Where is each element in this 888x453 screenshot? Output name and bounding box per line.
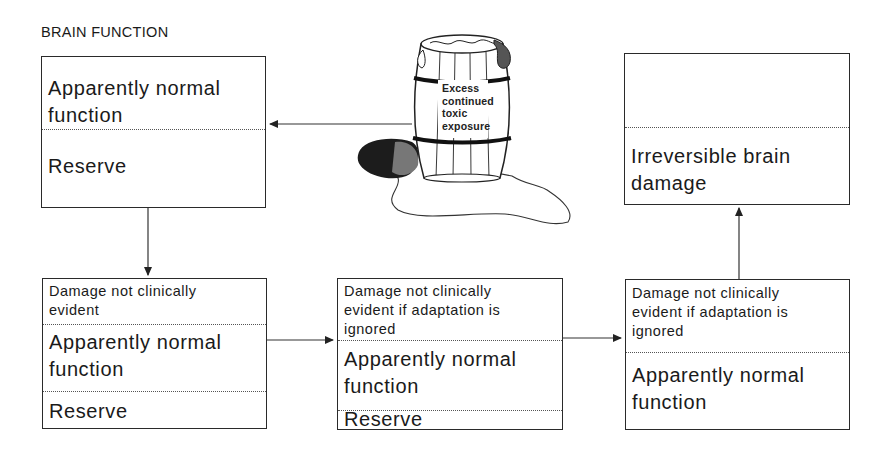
damage-section: Damage not clinically evident if adaptat… [338,282,562,339]
barrel-label: Excess continued toxic exposure [442,82,494,132]
divider [338,340,562,341]
irreversible-damage-section: Irreversible brain damage [625,143,849,197]
divider [43,324,266,325]
normal-function-section: Apparently normal function [42,75,265,129]
stage1-box: Damage not clinically evident Apparently… [42,278,267,429]
damage-section: Damage not clinically evident [43,282,266,320]
damage-section: Damage not clinically evident if adaptat… [626,284,849,341]
reserve-section: Reserve [43,398,266,425]
initial-brain-function-box: Apparently normal function Reserve [41,56,266,208]
divider [42,129,265,130]
normal-function-section: Apparently normal function [338,346,562,400]
normal-function-section: Apparently normal function [626,362,849,416]
irreversible-damage-box: Irreversible brain damage [624,53,850,205]
stage2-box: Damage not clinically evident if adaptat… [337,278,563,430]
divider [625,127,849,128]
reserve-section: Reserve [338,406,562,433]
reserve-section: Reserve [42,153,265,180]
divider [43,391,266,392]
stage3-box: Damage not clinically evident if adaptat… [625,279,850,430]
normal-function-section: Apparently normal function [43,329,266,383]
divider [626,352,849,353]
